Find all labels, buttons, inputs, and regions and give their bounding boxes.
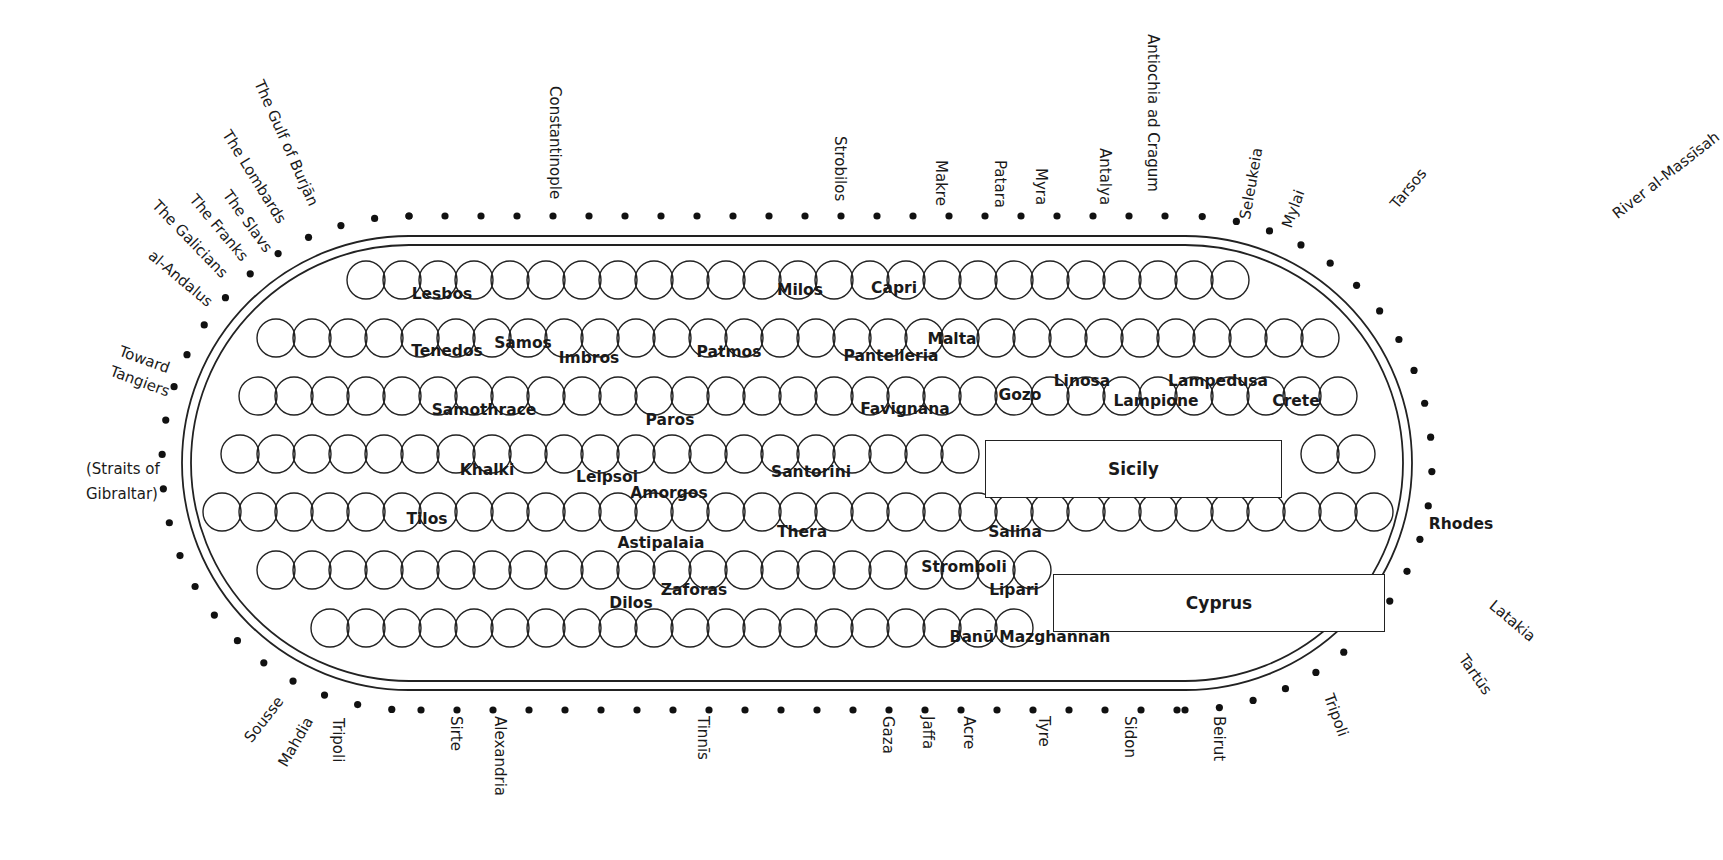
small-island-icon [509,435,547,473]
small-island-icon [1067,261,1105,299]
small-island-icon [707,377,745,415]
small-island-icon [905,435,943,473]
small-island-icon [239,377,277,415]
island-label: Gozo [998,386,1041,404]
small-island-icon [797,551,835,589]
small-island-icon [887,609,925,647]
small-island-icon [275,377,313,415]
small-island-icon [329,319,367,357]
small-island-icon [1211,493,1249,531]
large-island-label: Sicily [1108,459,1159,479]
island-label: Stromboli [921,558,1006,576]
coast-label: Antalya [1097,148,1112,205]
small-island-icon [221,435,259,473]
small-island-icon [329,551,367,589]
small-island-icon [635,377,673,415]
island-label: Tenedos [411,342,483,360]
island-label: Khalki [460,461,514,479]
small-island-icon [743,609,781,647]
small-island-icon [473,551,511,589]
island-label: Lipari [989,581,1039,599]
coast-label: Constantinople [547,86,562,199]
small-island-icon [527,609,565,647]
island-label: Leipsoi [576,468,638,486]
small-island-icon [383,377,421,415]
small-island-icon [851,493,889,531]
small-island-icon [329,435,367,473]
island-label: Santorini [771,463,851,481]
small-island-icon [1067,493,1105,531]
small-island-icon [1319,377,1357,415]
island-label: Favignana [860,400,950,418]
small-island-icon [815,377,853,415]
island-label: Lampedusa [1168,372,1268,390]
island-label: Crete [1272,392,1319,410]
small-island-icon [671,261,709,299]
island-label: Lampione [1113,392,1198,410]
small-island-icon [491,609,529,647]
small-island-icon [635,261,673,299]
small-island-icon [1013,319,1051,357]
small-island-icon [275,493,313,531]
small-island-icon [203,493,241,531]
coast-label: Alexandria [492,716,507,796]
small-island-icon [257,435,295,473]
island-label: Paros [646,411,695,429]
small-island-icon [923,493,961,531]
small-island-icon [815,609,853,647]
island-label: Milos [777,281,823,299]
small-island-icon [293,551,331,589]
island-label: Dilos [609,594,652,612]
small-island-icon [491,261,529,299]
coast-label: Strobilos [832,136,847,201]
small-island-icon [599,377,637,415]
small-island-icon [1229,319,1267,357]
coast-label: Tripoli [330,718,345,762]
large-island-label: Cyprus [1186,593,1252,613]
small-island-icon [707,261,745,299]
island-label: Zaforas [661,581,727,599]
small-island-icon [635,609,673,647]
small-island-icon [509,551,547,589]
coast-label: Acre [961,716,976,749]
island-label: Samothrace [432,401,537,419]
small-island-icon [761,551,799,589]
coast-label: Myra [1033,168,1048,205]
small-island-icon [1175,261,1213,299]
small-island-icon [239,493,277,531]
small-island-icon [1301,319,1339,357]
small-island-icon [257,551,295,589]
small-island-icon [1175,493,1213,531]
small-island-icon [599,261,637,299]
small-island-icon [995,261,1033,299]
small-island-icon [743,493,781,531]
island-label: Astipalaia [617,534,704,552]
small-island-icon [527,493,565,531]
small-island-icon [833,551,871,589]
small-island-icon [959,261,997,299]
small-island-icon [1211,261,1249,299]
small-island-icon [1103,261,1141,299]
small-island-icon [779,609,817,647]
small-island-icon [725,551,763,589]
island-label: Rhodes [1429,515,1493,533]
coast-label: Patara [992,160,1007,208]
small-island-icon [563,261,601,299]
small-island-icon [311,609,349,647]
small-island-icon [1121,319,1159,357]
small-island-icon [1103,493,1141,531]
small-island-icon [545,551,583,589]
large-island-box: Sicily [985,440,1282,498]
small-island-icon [1283,493,1321,531]
small-island-icon [923,261,961,299]
small-island-icon [1265,319,1303,357]
small-island-icon [743,261,781,299]
small-island-icon [689,435,727,473]
small-island-icon [563,609,601,647]
small-island-icon [1049,319,1087,357]
small-island-icon [671,377,709,415]
small-island-icon [419,609,457,647]
small-island-icon [1031,261,1069,299]
island-label: Tilos [406,510,447,528]
